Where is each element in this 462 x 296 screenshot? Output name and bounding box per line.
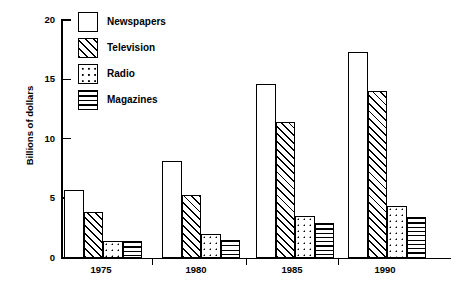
- legend-label-newspapers: Newspapers: [107, 16, 166, 27]
- legend-label-magazines: Magazines: [107, 94, 158, 105]
- legend-swatch-magazines: [78, 90, 98, 110]
- x-axis-line: [61, 258, 451, 260]
- y-axis-tick-label: 10: [29, 133, 55, 144]
- y-axis-tick-label: 15: [29, 73, 55, 84]
- x-axis-tick: [152, 258, 153, 265]
- y-axis-tick: [61, 138, 71, 139]
- y-axis-tick: [61, 79, 71, 80]
- y-axis-tick-label: 0: [29, 252, 55, 263]
- x-axis-label-1980: 1980: [161, 264, 231, 275]
- x-axis-tick: [246, 258, 247, 265]
- bar-newspapers-1975: [64, 190, 84, 258]
- bar-radio-1990: [387, 206, 407, 257]
- legend-label-radio: Radio: [107, 68, 135, 79]
- x-axis-label-1990: 1990: [350, 264, 420, 275]
- y-axis-line: [61, 20, 63, 259]
- bar-radio-1980: [201, 234, 221, 258]
- x-axis-label-1975: 1975: [66, 264, 136, 275]
- bar-radio-1985: [295, 216, 315, 258]
- bar-magazines-1985: [315, 223, 335, 257]
- bar-chart: Billions of dollars 05101520 19751980198…: [0, 0, 462, 296]
- bar-television-1975: [84, 212, 104, 257]
- bar-magazines-1975: [123, 241, 143, 258]
- bar-newspapers-1990: [348, 52, 368, 257]
- x-axis-tick: [338, 258, 339, 265]
- bar-magazines-1990: [407, 217, 427, 257]
- legend-swatch-radio: [78, 64, 98, 84]
- bar-newspapers-1980: [162, 161, 182, 257]
- bar-television-1985: [276, 122, 296, 257]
- legend-label-television: Television: [107, 42, 155, 53]
- bar-television-1990: [368, 91, 388, 257]
- bar-newspapers-1985: [256, 84, 276, 257]
- y-axis-tick: [61, 19, 71, 20]
- legend-swatch-newspapers: [78, 12, 98, 32]
- y-axis-tick-label: 5: [29, 192, 55, 203]
- legend-swatch-television: [78, 38, 98, 58]
- bar-television-1980: [182, 195, 202, 258]
- x-axis-label-1985: 1985: [257, 264, 327, 275]
- bar-magazines-1980: [221, 240, 241, 258]
- bar-radio-1975: [103, 241, 123, 258]
- y-axis-tick-label: 20: [29, 14, 55, 25]
